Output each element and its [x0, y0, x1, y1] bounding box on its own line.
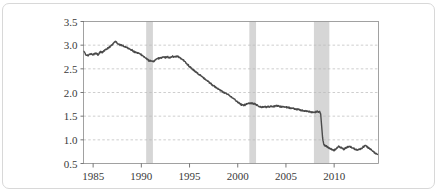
x-tick-label: 2010 — [323, 170, 346, 182]
y-tick-label: 1.5 — [64, 110, 78, 122]
series-line — [84, 41, 378, 154]
x-tick-label: 1985 — [82, 170, 105, 182]
x-tick-label: 2005 — [275, 170, 298, 182]
plot-wrapper: 0.51.01.52.02.53.03.5 198519901995200020… — [0, 0, 440, 195]
line-chart: 0.51.01.52.02.53.03.5 198519901995200020… — [0, 0, 440, 195]
y-tick-label: 3.5 — [64, 16, 78, 28]
y-axis-ticks: 0.51.01.52.02.53.03.5 — [64, 16, 84, 170]
y-tick-label: 2.0 — [64, 87, 78, 99]
y-tick-label: 3.0 — [64, 39, 78, 51]
gridlines — [84, 45, 379, 140]
x-tick-label: 1995 — [179, 170, 202, 182]
data-series — [84, 41, 378, 154]
y-tick-label: 0.5 — [64, 158, 78, 170]
series-clip-group — [84, 41, 378, 154]
y-tick-label: 2.5 — [64, 63, 78, 75]
x-tick-label: 2000 — [227, 170, 250, 182]
x-axis-ticks: 198519901995200020052010 — [82, 164, 346, 182]
x-tick-label: 1990 — [130, 170, 153, 182]
y-tick-label: 1.0 — [64, 134, 78, 146]
chart-figure: 0.51.01.52.02.53.03.5 198519901995200020… — [0, 0, 440, 195]
